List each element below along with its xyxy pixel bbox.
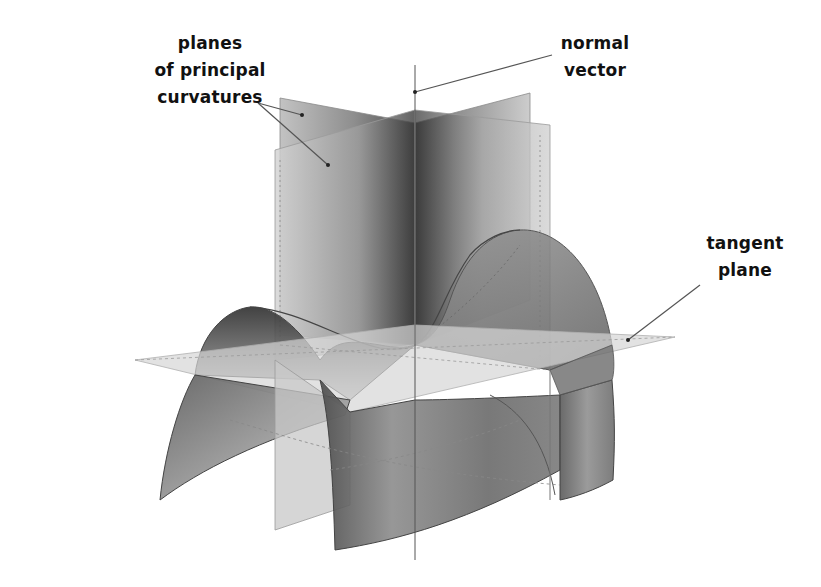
label-line: plane [695, 257, 795, 284]
label-line: vector [545, 57, 645, 84]
label-line: normal [545, 30, 645, 57]
label-line: of principal [130, 57, 290, 84]
planes-of-principal-curvatures-label: planes of principal curvatures [130, 30, 290, 111]
normal-vector-label: normal vector [545, 30, 645, 84]
tangent-plane-label: tangent plane [695, 230, 795, 284]
label-line: curvatures [130, 84, 290, 111]
label-line: tangent [695, 230, 795, 257]
diagram-canvas [0, 0, 821, 587]
saddle-curvature-diagram: planes of principal curvatures normal ve… [0, 0, 821, 587]
label-line: planes [130, 30, 290, 57]
